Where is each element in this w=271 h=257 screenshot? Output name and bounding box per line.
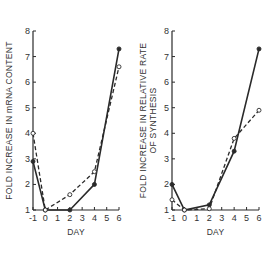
data-point-filled xyxy=(31,159,35,163)
series-line-solid xyxy=(33,49,119,210)
data-point-open xyxy=(232,136,236,140)
data-point-open xyxy=(31,131,35,135)
series-line-dashed xyxy=(172,110,259,210)
y-tick-label: 3 xyxy=(164,154,169,164)
y-tick-label: 2 xyxy=(164,179,169,189)
data-point-open xyxy=(207,207,211,211)
data-point-open xyxy=(170,198,174,202)
data-point-open xyxy=(182,208,186,212)
x-tick-label: 1 xyxy=(55,213,60,223)
chart-panel-relative-synthesis: 12345678-10123456DAYFOLD INCREASE IN REL… xyxy=(138,26,262,237)
y-tick-label: 7 xyxy=(25,52,30,62)
x-tick-label: 4 xyxy=(92,213,97,223)
y-tick-label: 8 xyxy=(25,26,30,36)
series-line-dashed xyxy=(33,67,119,210)
y-tick-label: 2 xyxy=(25,179,30,189)
y-tick-label: 4 xyxy=(164,128,169,138)
x-tick-label: 6 xyxy=(116,213,121,223)
data-point-open xyxy=(92,170,96,174)
y-tick-label: 5 xyxy=(164,103,169,113)
y-axis-title: FOLD INCREASE IN RELATIVE RATE xyxy=(138,43,148,199)
x-tick-label: 4 xyxy=(232,213,237,223)
chart-panel-mrna-content: 12345678-10123456DAYFOLD INCREASE IN mRN… xyxy=(4,26,122,237)
data-point-filled xyxy=(92,182,96,186)
y-tick-label: 5 xyxy=(25,103,30,113)
x-axis-title: DAY xyxy=(207,227,225,237)
figure: 12345678-10123456DAYFOLD INCREASE IN mRN… xyxy=(0,0,271,257)
series-line-solid xyxy=(172,49,259,210)
y-axis-title: OF SYNTHESIS xyxy=(148,88,158,154)
y-tick-label: 6 xyxy=(25,77,30,87)
x-axis-title: DAY xyxy=(67,227,85,237)
data-point-open xyxy=(117,65,121,69)
data-point-filled xyxy=(117,47,121,51)
y-tick-label: 3 xyxy=(25,154,30,164)
data-point-filled xyxy=(257,47,261,51)
y-tick-label: 8 xyxy=(164,26,169,36)
x-tick-label: 5 xyxy=(244,213,249,223)
x-tick-label: 3 xyxy=(219,213,224,223)
data-point-filled xyxy=(170,182,174,186)
y-tick-label: 4 xyxy=(25,128,30,138)
x-tick-label: 0 xyxy=(43,213,48,223)
data-point-open xyxy=(68,193,72,197)
x-tick-label: -1 xyxy=(168,213,176,223)
data-point-open xyxy=(43,208,47,212)
y-tick-label: 6 xyxy=(164,77,169,87)
data-point-open xyxy=(257,108,261,112)
data-point-filled xyxy=(232,149,236,153)
x-tick-label: 0 xyxy=(182,213,187,223)
y-axis-title: FOLD INCREASE IN mRNA CONTENT xyxy=(4,41,14,199)
data-point-filled xyxy=(68,208,72,212)
x-tick-label: 3 xyxy=(80,213,85,223)
x-tick-label: 6 xyxy=(256,213,261,223)
x-tick-label: 1 xyxy=(194,213,199,223)
y-tick-label: 7 xyxy=(164,52,169,62)
x-tick-label: -1 xyxy=(29,213,37,223)
x-tick-label: 2 xyxy=(67,213,72,223)
x-tick-label: 5 xyxy=(104,213,109,223)
x-tick-label: 2 xyxy=(207,213,212,223)
